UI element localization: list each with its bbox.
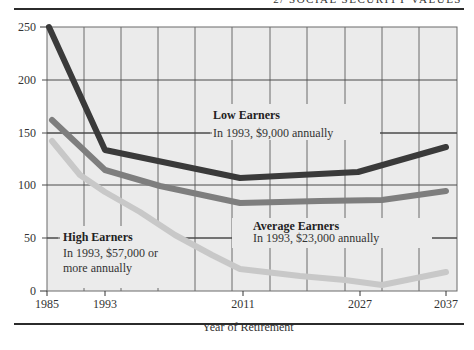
line-chart: 250 200 150 100 50 0 1985 1993 2011 2027… [0, 0, 474, 350]
x-tick-2011: 2011 [231, 297, 255, 311]
low-earners-label-desc: In 1993, $9,000 annually [213, 126, 333, 140]
y-tick-50: 50 [24, 231, 36, 245]
high-earners-label-desc-2: more annually [63, 261, 132, 275]
y-tick-100: 100 [18, 178, 36, 192]
low-earners-label-title: Low Earners [213, 108, 280, 122]
bottom-rule [14, 323, 464, 325]
y-tick-0: 0 [30, 284, 36, 298]
high-earners-label-title: High Earners [63, 230, 133, 244]
x-tick-2037: 2037 [434, 297, 458, 311]
average-earners-label-desc: In 1993, $23,000 annually [253, 231, 379, 245]
x-tick-1985: 1985 [35, 297, 59, 311]
x-tick-1993: 1993 [93, 297, 117, 311]
x-tick-2027: 2027 [348, 297, 372, 311]
high-earners-label-desc-1: In 1993, $57,000 or [63, 246, 158, 260]
y-tick-250: 250 [18, 20, 36, 34]
y-tick-150: 150 [18, 126, 36, 140]
y-tick-200: 200 [18, 73, 36, 87]
